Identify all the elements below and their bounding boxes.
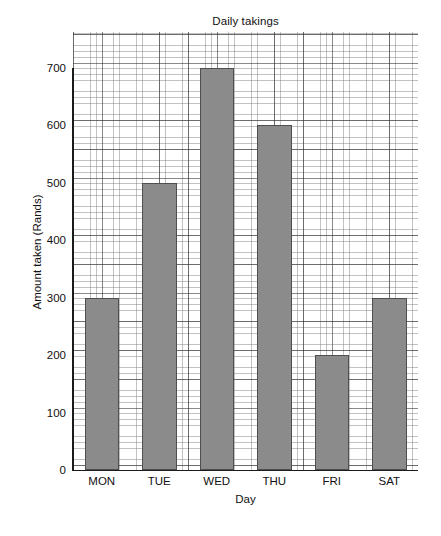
bar-chart: Daily takings 0100200300400500600700 MON… bbox=[0, 0, 441, 536]
chart-title: Daily takings bbox=[73, 14, 418, 28]
bar-thu bbox=[257, 125, 292, 470]
bar-mon bbox=[85, 298, 120, 470]
y-tick-label-100: 100 bbox=[6, 407, 66, 419]
x-tick-label-fri: FRI bbox=[302, 474, 362, 488]
x-tick-label-tue: TUE bbox=[129, 474, 189, 488]
x-axis-line bbox=[72, 470, 418, 472]
bar-wed bbox=[200, 68, 235, 470]
x-tick-label-sat: SAT bbox=[359, 474, 419, 488]
x-tick-label-wed: WED bbox=[187, 474, 247, 488]
x-axis-tick-labels: MONTUEWEDTHUFRISAT bbox=[0, 474, 441, 492]
y-axis-title: Amount taken (Rands) bbox=[30, 122, 44, 382]
plot-area bbox=[73, 32, 418, 470]
x-axis-title: Day bbox=[73, 492, 418, 506]
x-tick-label-mon: MON bbox=[72, 474, 132, 488]
y-axis-line bbox=[72, 68, 74, 471]
y-tick-label-700: 700 bbox=[6, 62, 66, 74]
x-tick-label-thu: THU bbox=[244, 474, 304, 488]
bar-fri bbox=[315, 355, 350, 470]
bar-tue bbox=[142, 183, 177, 470]
bar-sat bbox=[372, 298, 407, 470]
